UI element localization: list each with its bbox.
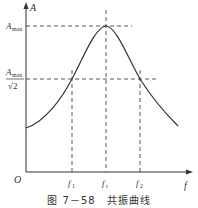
origin-label: O	[14, 174, 21, 185]
half-amax-label: A	[5, 67, 12, 77]
y-axis-label: A	[29, 2, 37, 13]
sqrt2-label: √2	[8, 81, 17, 91]
y-axis-arrow	[24, 2, 29, 9]
resonance-diagram: A f O A max A max √2 f 1 f r f 2	[0, 0, 198, 208]
figure-caption: 图 7－58 共振曲线	[0, 192, 198, 207]
x-axis-label: f	[184, 180, 188, 191]
fr-subscript: r	[106, 183, 108, 189]
x-axis-arrow	[186, 170, 193, 175]
f2-subscript: 2	[140, 183, 143, 189]
amax-subscript: max	[12, 26, 22, 32]
f1-subscript: 1	[72, 183, 75, 189]
resonance-curve	[26, 26, 178, 128]
half-amax-subscript: max	[12, 72, 22, 78]
amax-label: A	[5, 21, 12, 31]
